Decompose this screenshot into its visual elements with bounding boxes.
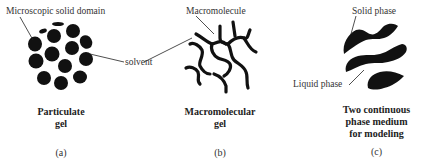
microscopic-solid-domain-label: Microscopic solid domain (6, 7, 105, 17)
caption-line: for modeling (330, 128, 423, 140)
macromolecule-leader-line (196, 16, 214, 34)
diagram-artwork (0, 0, 423, 168)
particulate-gel-caption: Particulate gel (20, 106, 102, 130)
liquid-phase-label: Liquid phase (293, 80, 342, 90)
caption-line: gel (170, 118, 270, 130)
caption-line: gel (20, 118, 102, 130)
solid-phase-label: Solid phase (352, 7, 396, 17)
macromolecule-label: Macromolecule (186, 7, 246, 17)
solvent-leader-line-a (90, 54, 124, 62)
two-phase-illustration (344, 24, 407, 90)
particulate-gel-illustration (28, 22, 95, 90)
solvent-label: solvent (125, 58, 152, 68)
liquid-phase-leader-line (349, 70, 364, 85)
panel-c-letter: (c) (330, 147, 423, 157)
panel-a-letter: (a) (20, 148, 102, 158)
caption-line: Macromolecular (170, 106, 270, 118)
two-phase-medium-caption: Two continuous phase medium for modeling (330, 104, 423, 140)
domain-leader-line (20, 17, 33, 40)
caption-line: phase medium (330, 116, 423, 128)
caption-line: Two continuous (330, 104, 423, 116)
caption-line: Particulate (20, 106, 102, 118)
panel-b-letter: (b) (170, 148, 270, 158)
macromolecular-gel-illustration (186, 22, 256, 92)
macromolecular-gel-caption: Macromolecular gel (170, 106, 270, 130)
gel-types-diagram: Microscopic solid domain solvent Particu… (0, 0, 423, 168)
